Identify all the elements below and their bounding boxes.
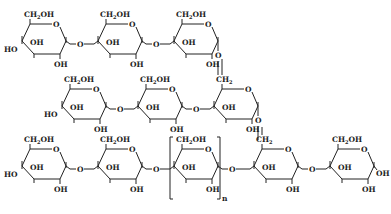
hydroxyl-label: OH xyxy=(106,163,120,172)
hydroxyl-label: HO xyxy=(44,110,58,119)
hydroxyl-label: OH xyxy=(130,60,144,69)
hydroxyl-label: HO xyxy=(4,170,18,179)
bond xyxy=(174,149,182,166)
bond xyxy=(174,24,182,41)
bond xyxy=(254,149,262,166)
ring-oxygen-label: O xyxy=(285,145,292,154)
glycosidic-oxygen-label: O xyxy=(153,40,160,49)
ring-oxygen-label: O xyxy=(205,20,212,29)
bond xyxy=(326,166,330,169)
bond xyxy=(60,166,66,179)
bond xyxy=(94,41,98,44)
hydroxyl-label: OH xyxy=(70,103,84,112)
bond xyxy=(212,152,218,166)
hydroxyl-label: OH xyxy=(376,169,390,178)
bond xyxy=(292,166,298,179)
glycosidic-oxygen-label: O xyxy=(255,116,262,125)
hydroxyl-label: OH xyxy=(286,185,300,194)
glucose-unit: OCH2OHOHOHHO xyxy=(44,75,108,134)
hydroxyl-label: OH xyxy=(170,125,184,134)
hydroxymethyl-label: CH2OH xyxy=(176,135,206,145)
bond xyxy=(66,41,70,44)
polysaccharide-structure-diagram: OCH2OHOHOHHOOCH2OHOHOHOCH2OHOHOHOOOOCH2O… xyxy=(0,0,391,214)
hydroxyl-label: OH xyxy=(54,60,68,69)
bond xyxy=(142,41,146,44)
hydroxyl-label: OH xyxy=(262,163,276,172)
bond xyxy=(98,149,106,166)
bond xyxy=(22,149,30,166)
bond xyxy=(136,166,142,179)
bond xyxy=(214,89,222,106)
bond xyxy=(98,24,106,41)
ring-oxygen-label: O xyxy=(129,145,136,154)
bond xyxy=(210,106,214,109)
bond xyxy=(176,92,182,106)
hydroxyl-label: OH xyxy=(30,38,44,47)
glucose-unit: OCH2OHOHOH xyxy=(98,10,144,69)
methylene-label: CH2 xyxy=(256,135,273,145)
ring-oxygen-label: O xyxy=(53,20,60,29)
bond xyxy=(60,27,66,41)
bond xyxy=(134,106,138,109)
hydroxymethyl-label: CH2OH xyxy=(24,10,54,20)
hydroxymethyl-label: CH2OH xyxy=(100,135,130,145)
glycosidic-oxygen-label: O xyxy=(229,165,236,174)
ring-oxygen-label: O xyxy=(93,85,100,94)
glycosidic-oxygen-label: O xyxy=(117,105,124,114)
bond xyxy=(170,166,174,169)
hydroxyl-label: OH xyxy=(146,103,160,112)
bond xyxy=(252,92,258,106)
bond xyxy=(182,106,186,109)
bond xyxy=(100,92,106,106)
hydroxyl-label: OH xyxy=(106,38,120,47)
bond xyxy=(94,166,98,169)
hydroxymethyl-label: CH2OH xyxy=(24,135,54,145)
hydroxyl-label: OH xyxy=(130,185,144,194)
hydroxymethyl-label: CH2OH xyxy=(332,135,362,145)
glucose-unit: OCH2OHOHOH xyxy=(174,10,220,69)
ring-oxygen-label: O xyxy=(129,20,136,29)
hydroxyl-label: OH xyxy=(94,125,108,134)
glycosidic-oxygen-label: O xyxy=(77,165,84,174)
glycosidic-oxygen-label: O xyxy=(193,105,200,114)
ring-oxygen-label: O xyxy=(245,85,252,94)
ring-oxygen-label: O xyxy=(205,145,212,154)
glucose-unit: OCH2OHOHOH xyxy=(138,75,184,134)
glucose-unit: OCH2OHOH xyxy=(254,135,300,194)
glucose-unit: OCH2OHOH xyxy=(214,75,260,134)
bond xyxy=(250,166,254,169)
ring-oxygen-label: O xyxy=(53,145,60,154)
glucose-unit: OCH2OHOHOHHO xyxy=(4,10,68,69)
bond xyxy=(136,41,142,54)
bond xyxy=(136,27,142,41)
hydroxyl-label: HO xyxy=(4,45,18,54)
hydroxyl-label: OH xyxy=(182,163,196,172)
glycosidic-oxygen-label: O xyxy=(77,40,84,49)
bond xyxy=(66,166,70,169)
glycosidic-oxygen-label: O xyxy=(153,165,160,174)
hydroxymethyl-label: CH2OH xyxy=(140,75,170,85)
bond xyxy=(22,24,30,41)
bond xyxy=(176,106,182,119)
glycosidic-oxygen-label: O xyxy=(309,165,316,174)
glucose-unit: OCH2OHOHOH xyxy=(98,135,144,194)
bond xyxy=(298,166,302,169)
bond xyxy=(100,106,106,119)
bond xyxy=(170,41,174,44)
ring-oxygen-label: O xyxy=(361,145,368,154)
bond xyxy=(62,89,70,106)
hydroxyl-label: OH xyxy=(362,185,376,194)
hydroxyl-label: OH xyxy=(30,163,44,172)
glycosidic-oxygen-label: O xyxy=(215,51,222,60)
hydroxymethyl-label: CH2OH xyxy=(176,10,206,20)
bond xyxy=(330,149,338,166)
hydroxyl-label: OH xyxy=(182,38,196,47)
hydroxymethyl-label: CH2OH xyxy=(64,75,94,85)
bond xyxy=(60,152,66,166)
glucose-unit: OCH2OHOHOH xyxy=(174,135,220,194)
bond xyxy=(60,41,66,54)
bond xyxy=(136,152,142,166)
bond xyxy=(292,152,298,166)
hydroxyl-label: OH xyxy=(54,185,68,194)
glucose-unit: OCH2OHOHOHHO xyxy=(4,135,68,194)
